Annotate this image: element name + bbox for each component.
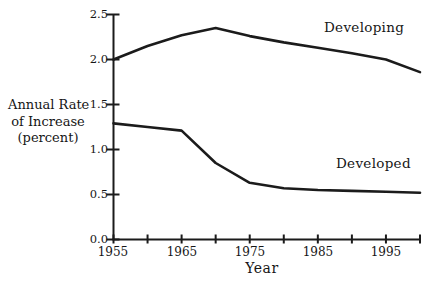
x-tick-label-1985: 1985	[298, 246, 338, 259]
x-tick-label-1965: 1965	[162, 246, 202, 259]
y-tick-label-2-0: 2.0	[76, 53, 108, 66]
x-tick-label-1995: 1995	[366, 246, 406, 259]
x-tick-label-1955: 1955	[93, 246, 133, 259]
y-tick-label-0-5: 0.5	[76, 188, 108, 201]
series-label-developing: Developing	[324, 20, 404, 34]
y-tick-label-1-5: 1.5	[76, 98, 108, 111]
x-axis-title: Year	[222, 261, 302, 276]
x-tick-label-1975: 1975	[230, 246, 270, 259]
y-tick-label-2-5: 2.5	[76, 8, 108, 21]
y-axis-title-line-2: of Increase	[8, 114, 88, 131]
population-growth-rate-chart: Annual Rate of Increase (percent) 2.5 2.…	[0, 0, 436, 289]
series-label-developed: Developed	[336, 156, 411, 170]
y-tick-label-1-0: 1.0	[76, 143, 108, 156]
